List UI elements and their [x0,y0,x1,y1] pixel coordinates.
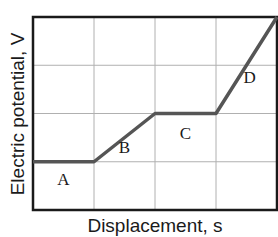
segment-label-a: A [57,170,70,189]
segment-labels: ABCD [57,68,255,188]
x-axis-label: Displacement, s [87,215,222,236]
segment-label-d: D [243,68,255,87]
chart: ABCD Electric potential, V Displacement,… [0,0,278,237]
segment-label-c: C [180,124,191,143]
y-axis-label: Electric potential, V [7,32,28,195]
segment-label-b: B [119,138,130,157]
